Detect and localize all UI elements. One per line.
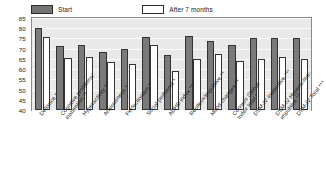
- legend-entry-after: After 7 months: [142, 3, 213, 15]
- bar-start: [121, 49, 128, 110]
- y-axis-tick-label: 55: [19, 76, 26, 83]
- y-axis: 85807570656055504540: [0, 17, 29, 111]
- legend-label-after: After 7 months: [169, 6, 213, 13]
- y-axis-tick-label: 70: [19, 45, 26, 52]
- y-axis-tick-label: 60: [19, 66, 26, 73]
- bar-start: [142, 37, 149, 110]
- bar-start: [35, 28, 42, 110]
- legend-swatch-after-icon: [142, 5, 164, 14]
- bar-start: [207, 41, 214, 111]
- y-axis-tick-label: 45: [19, 96, 26, 103]
- x-axis: Defiance *Cognitive problems/inattention…: [0, 111, 320, 178]
- bar-start: [56, 46, 63, 110]
- y-axis-tick-label: 50: [19, 86, 26, 93]
- bar-start: [228, 45, 235, 110]
- bar-start: [185, 36, 192, 110]
- legend-label-start: Start: [58, 6, 72, 13]
- bar-start: [271, 38, 278, 110]
- y-axis-tick-label: 85: [19, 15, 26, 22]
- legend-swatch-start-icon: [31, 5, 53, 14]
- y-axis-tick-label: 75: [19, 35, 26, 42]
- chart-legend: Start After 7 months: [31, 2, 281, 16]
- legend-entry-start: Start: [31, 3, 72, 15]
- y-axis-tick-label: 65: [19, 55, 26, 62]
- y-axis-tick-label: 80: [19, 25, 26, 32]
